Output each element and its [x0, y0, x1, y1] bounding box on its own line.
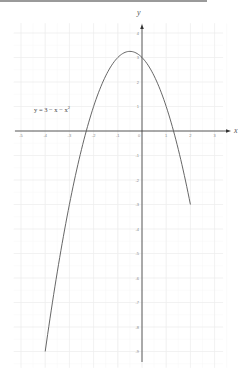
x-tick-label: 1: [165, 133, 168, 138]
x-tick-label: 2: [189, 133, 192, 138]
y-axis-label: y: [136, 8, 141, 17]
equation-label: y = 3 − x − x2: [34, 105, 70, 113]
function-plot: -5-4-3-2-101234321-1-2-3-4-5-6-7-8-9 x y…: [0, 0, 247, 380]
x-axis-label: x: [233, 126, 238, 135]
x-tick-label: 3: [213, 133, 216, 138]
x-tick-label: -3: [68, 133, 72, 138]
grid: [14, 23, 227, 368]
y-axis-arrow-icon: [140, 24, 144, 29]
x-axis-arrow-icon: [226, 129, 231, 133]
x-tick-label: -5: [19, 133, 23, 138]
x-tick-label: 0: [138, 133, 141, 138]
x-tick-label: -4: [43, 133, 47, 138]
axes: [15, 24, 231, 362]
x-tick-label: -1: [116, 133, 120, 138]
x-tick-label: -2: [92, 133, 96, 138]
